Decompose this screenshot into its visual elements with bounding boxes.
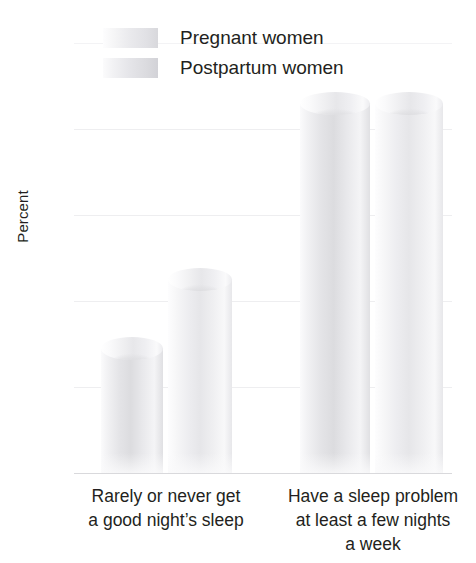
legend-item-pregnant: Pregnant women (103, 27, 324, 49)
bar-foot-shade (375, 453, 443, 473)
bar-foot-shade (300, 453, 370, 473)
legend-label-postpartum: Postpartum women (180, 57, 344, 79)
bar-top-cap-shade (168, 268, 232, 291)
category-label-2: Have a sleep problem at least a few nigh… (270, 484, 476, 556)
legend-swatch-pregnant (103, 28, 158, 48)
category-label-1-line-1: Rarely or never get (60, 484, 272, 508)
y-axis-title: Percent (14, 167, 31, 267)
bar-body (300, 103, 370, 473)
bar-top-cap-shade (101, 337, 163, 360)
category-label-1-line-2: a good night’s sleep (60, 508, 272, 532)
bar-chart: Percent 100 80 60 40 20 0 (0, 0, 476, 563)
bar-top-cap-shade (300, 92, 370, 115)
legend-item-postpartum: Postpartum women (103, 57, 344, 79)
bar-pregnant-rarely (101, 337, 163, 473)
legend-swatch-postpartum (103, 58, 158, 78)
bar-body (375, 103, 443, 473)
plot-area: 100 80 60 40 20 0 (74, 30, 452, 473)
bar-top-cap-shade (375, 92, 443, 115)
category-label-2-line-1: Have a sleep problem (270, 484, 476, 508)
category-label-1: Rarely or never get a good night’s sleep (60, 484, 272, 532)
axis-baseline (74, 473, 452, 474)
bar-pregnant-sleep-problem (300, 92, 370, 473)
bar-foot-shade (168, 453, 232, 473)
category-label-2-line-2: at least a few nights (270, 508, 476, 532)
legend-label-pregnant: Pregnant women (180, 27, 324, 49)
bar-postpartum-rarely (168, 268, 232, 473)
bar-foot-shade (101, 453, 163, 473)
bar-body (168, 279, 232, 473)
bar-postpartum-sleep-problem (375, 92, 443, 473)
category-label-2-line-3: a week (270, 532, 476, 556)
